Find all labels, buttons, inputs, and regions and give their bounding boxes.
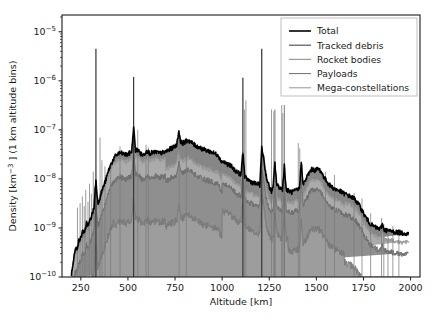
- figure-container: 25050075010001250150017502000 10−510−610…: [0, 0, 433, 320]
- legend-label: Total: [316, 25, 338, 36]
- x-tick-label-500: 500: [119, 282, 137, 293]
- x-tick-label-1250: 1250: [257, 282, 281, 293]
- x-tick-label-250: 250: [72, 282, 90, 293]
- y-axis-title: Density [km−3 ] (1 km altitude bins): [7, 60, 18, 231]
- legend-label: Rocket bodies: [317, 54, 381, 65]
- density-vs-altitude-chart: 25050075010001250150017502000 10−510−610…: [0, 0, 433, 320]
- legend-label: Mega-constellations: [317, 82, 409, 93]
- x-tick-label-750: 750: [166, 282, 184, 293]
- chart-legend: TotalTracked debrisRocket bodiesPayloads…: [281, 18, 417, 96]
- legend-label: Payloads: [317, 68, 358, 79]
- x-axis-title: Altitude [km]: [210, 296, 272, 307]
- x-tick-label-1500: 1500: [304, 282, 328, 293]
- x-tick-label-1750: 1750: [351, 282, 375, 293]
- legend-label: Tracked debris: [316, 40, 384, 51]
- x-tick-label-2000: 2000: [398, 282, 422, 293]
- x-tick-label-1000: 1000: [210, 282, 234, 293]
